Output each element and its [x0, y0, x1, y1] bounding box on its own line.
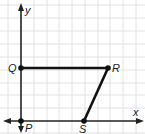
coordinate-plane-svg: y x Q R S P — [0, 0, 145, 134]
y-axis-arrow-up-icon — [18, 3, 24, 11]
coordinate-plane: y x Q R S P — [0, 0, 145, 134]
point-P — [18, 118, 24, 124]
x-axis-arrow-right-icon — [136, 118, 144, 124]
point-label-S: S — [79, 123, 87, 134]
x-axis-label: x — [132, 106, 139, 118]
y-axis-label: y — [24, 4, 32, 16]
point-R — [105, 65, 111, 71]
point-label-R: R — [112, 62, 120, 74]
point-label-P: P — [25, 122, 33, 134]
y-axis-arrow-down-icon — [18, 126, 24, 133]
point-label-Q: Q — [8, 62, 17, 74]
point-Q — [18, 65, 24, 71]
x-axis-arrow-left-icon — [3, 118, 11, 124]
